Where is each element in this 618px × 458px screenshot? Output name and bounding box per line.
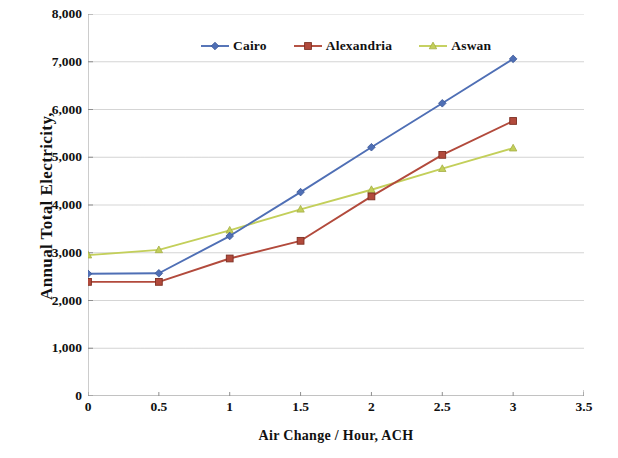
x-axis-tick-label: 1.5 bbox=[281, 400, 321, 414]
data-point-marker bbox=[509, 144, 516, 151]
x-axis-tick-labels: 00.511.522.533.5 bbox=[0, 400, 618, 422]
plot-svg bbox=[88, 14, 584, 396]
x-axis-tick-label: 0.5 bbox=[139, 400, 179, 414]
legend-label: Cairo bbox=[233, 38, 267, 54]
legend-marker-square-icon bbox=[293, 40, 323, 52]
x-axis-tick-label: 1 bbox=[210, 400, 250, 414]
x-axis-tick-marks bbox=[88, 392, 584, 396]
legend-label: Alexandria bbox=[326, 38, 393, 54]
data-point-marker bbox=[88, 270, 92, 278]
data-point-marker bbox=[368, 193, 375, 200]
y-axis-tick-label: 5,000 bbox=[26, 150, 82, 164]
x-axis-tick-label: 2 bbox=[351, 400, 391, 414]
data-point-marker bbox=[226, 255, 233, 262]
y-axis-tick-label: 4,000 bbox=[26, 198, 82, 212]
legend-marker-triangle-icon bbox=[418, 40, 448, 52]
x-axis-tick-label: 3 bbox=[493, 400, 533, 414]
y-axis-tick-label: 7,000 bbox=[26, 55, 82, 69]
data-point-marker bbox=[155, 269, 163, 277]
data-series-group bbox=[88, 55, 517, 285]
series-alexandria bbox=[88, 118, 517, 286]
data-point-marker bbox=[88, 278, 91, 285]
legend-marker-diamond-icon bbox=[200, 40, 230, 52]
y-axis-tick-label: 3,000 bbox=[26, 246, 82, 260]
chart-figure: Annual Total Electricity, 01,0002,0003,0… bbox=[0, 0, 618, 458]
data-point-marker bbox=[304, 43, 311, 50]
plot-area bbox=[88, 14, 584, 396]
y-axis-tick-labels: 01,0002,0003,0004,0005,0006,0007,0008,00… bbox=[20, 0, 82, 458]
x-axis-tick-label: 3.5 bbox=[564, 400, 604, 414]
legend-item-alexandria: Alexandria bbox=[293, 38, 393, 54]
data-point-marker bbox=[211, 42, 219, 50]
y-axis-tick-label: 8,000 bbox=[26, 7, 82, 21]
data-point-marker bbox=[439, 151, 446, 158]
chart-legend: CairoAlexandriaAswan bbox=[200, 38, 491, 54]
data-point-marker bbox=[297, 237, 304, 244]
x-axis-tick-label: 0 bbox=[68, 400, 108, 414]
x-axis-title: Air Change / Hour, ACH bbox=[90, 428, 582, 444]
data-point-marker bbox=[155, 278, 162, 285]
y-axis-tick-label: 1,000 bbox=[26, 341, 82, 355]
legend-item-cairo: Cairo bbox=[200, 38, 267, 54]
y-axis-tick-marks bbox=[88, 14, 93, 396]
y-axis-tick-label: 2,000 bbox=[26, 294, 82, 308]
legend-label: Aswan bbox=[451, 38, 491, 54]
data-point-marker bbox=[510, 118, 517, 125]
x-axis-tick-label: 2.5 bbox=[422, 400, 462, 414]
gridlines bbox=[88, 14, 584, 396]
legend-item-aswan: Aswan bbox=[418, 38, 491, 54]
y-axis-tick-label: 6,000 bbox=[26, 103, 82, 117]
